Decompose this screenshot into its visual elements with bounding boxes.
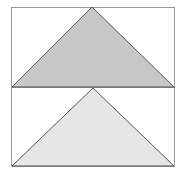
diagram-canvas — [0, 0, 183, 174]
